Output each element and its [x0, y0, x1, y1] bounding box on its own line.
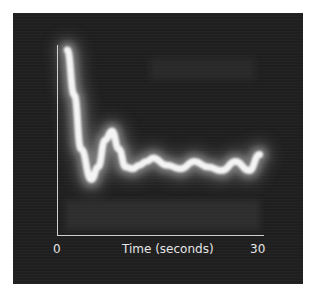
noise-band-upper	[150, 58, 255, 80]
noise-band	[65, 200, 260, 230]
x-tick-start: 0	[53, 242, 61, 256]
x-axis-title: Time (seconds)	[122, 242, 214, 256]
x-tick-end: 30	[250, 242, 265, 256]
